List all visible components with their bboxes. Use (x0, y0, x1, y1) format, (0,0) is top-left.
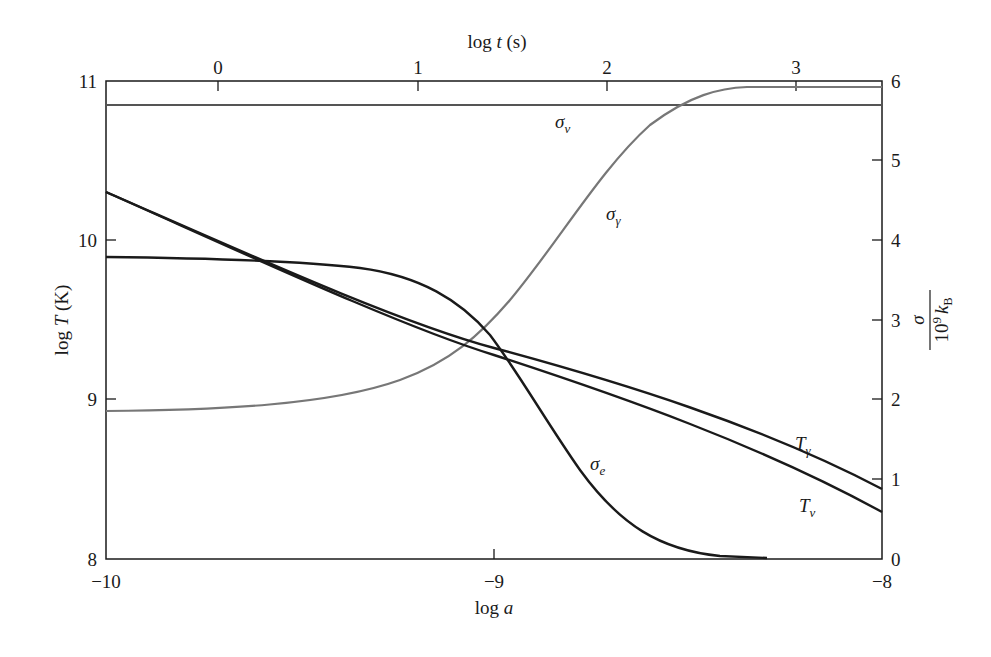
curve-sigma-gamma (106, 87, 882, 411)
top-axis-ticks (218, 81, 796, 91)
left-axis-ticks (106, 240, 116, 399)
top-tick-3: 3 (791, 57, 801, 78)
left-tick-9: 9 (88, 389, 98, 410)
label-sigma-nu: σν (555, 111, 570, 136)
right-tick-5: 5 (891, 150, 901, 171)
right-axis-title: σ 109kB (907, 290, 955, 350)
label-sigma-e: σe (590, 453, 605, 478)
left-tick-8: 8 (88, 549, 98, 570)
bottom-tick-neg8: −8 (872, 571, 892, 592)
right-tick-3: 3 (891, 310, 901, 331)
label-T-nu: Tν (799, 495, 816, 520)
left-axis-title: log T (K) (51, 285, 73, 356)
svg-text:109kB: 109kB (929, 298, 955, 343)
right-axis-ticks (872, 160, 882, 479)
top-axis-title: log t (s) (467, 31, 526, 53)
right-tick-0: 0 (891, 549, 901, 570)
right-tick-2: 2 (891, 389, 901, 410)
bottom-axis-title: log a (475, 597, 514, 618)
bottom-tick-neg9: −9 (484, 571, 504, 592)
top-tick-1: 1 (413, 57, 423, 78)
label-sigma-gamma: σγ (606, 203, 621, 228)
right-tick-1: 1 (891, 469, 901, 490)
top-tick-2: 2 (602, 57, 612, 78)
left-tick-10: 10 (78, 230, 97, 251)
bottom-tick-neg10: −10 (91, 571, 121, 592)
right-tick-4: 4 (891, 230, 901, 251)
curve-T-nu (106, 192, 882, 512)
chart-figure: 11 10 9 8 6 5 4 3 2 1 0 −10 −9 −8 0 1 2 … (0, 0, 991, 657)
svg-text:σ: σ (907, 315, 928, 325)
plot-frame (106, 81, 882, 559)
left-tick-11: 11 (79, 71, 97, 92)
right-tick-6: 6 (891, 71, 901, 92)
label-T-gamma: Tγ (795, 433, 812, 458)
top-tick-0: 0 (213, 57, 223, 78)
